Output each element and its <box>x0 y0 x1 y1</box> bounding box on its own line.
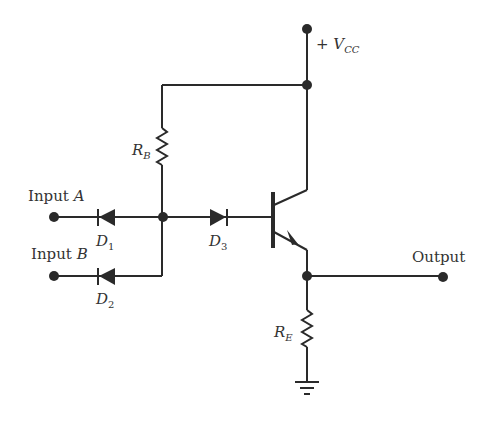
vcc-sub: CC <box>344 44 359 55</box>
input-b-terminal <box>49 271 59 281</box>
d2-main: D <box>96 290 108 308</box>
d1-label: D1 <box>96 234 114 252</box>
input-a-text: Input <box>28 187 69 205</box>
d3-main: D <box>209 232 221 250</box>
d2-label: D2 <box>96 292 114 310</box>
d3-sub: 3 <box>221 241 227 252</box>
output-terminal <box>438 272 448 282</box>
d2-sub: 2 <box>108 299 114 310</box>
circuit-diagram: + VCC RB RE Input A Input B D1 D2 D3 Out… <box>0 0 490 424</box>
rb-label: RB <box>132 143 151 161</box>
diode-d1 <box>98 209 115 226</box>
d1-main: D <box>96 232 108 250</box>
rb-resistor <box>157 128 167 165</box>
diode-d2 <box>98 268 115 285</box>
d3-label: D3 <box>209 234 227 252</box>
input-a-label: Input A <box>28 189 85 204</box>
junction-output <box>302 271 312 281</box>
junction-top <box>302 80 312 90</box>
input-b-text: Input <box>31 245 72 263</box>
vcc-label: + VCC <box>316 37 360 55</box>
collector <box>274 190 307 205</box>
diode-d3 <box>210 209 227 226</box>
vcc-v: V <box>333 35 344 53</box>
emitter-arrow <box>287 230 298 245</box>
input-b-letter: B <box>77 245 88 263</box>
re-label: RE <box>274 325 293 343</box>
output-label: Output <box>412 250 465 265</box>
re-sub: E <box>285 332 292 343</box>
input-a-terminal <box>49 212 59 222</box>
re-main: R <box>274 323 285 341</box>
junction-middle <box>158 212 168 222</box>
rb-main: R <box>132 141 143 159</box>
input-a-letter: A <box>74 187 85 205</box>
vcc-plus: + <box>316 35 329 53</box>
input-b-label: Input B <box>31 247 88 262</box>
rb-sub: B <box>143 150 150 161</box>
vcc-terminal <box>302 24 312 34</box>
re-resistor <box>302 310 312 347</box>
schematic-lines <box>0 0 490 424</box>
d1-sub: 1 <box>108 241 114 252</box>
